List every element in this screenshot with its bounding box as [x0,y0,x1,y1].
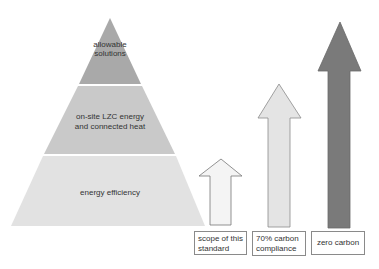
label-box-zero-carbon: zero carbon [311,231,365,255]
arrow-70-carbon-compliance [258,84,301,227]
arrow-zero-carbon [318,22,361,228]
label-line: compliance [256,244,302,254]
layer-label-allowable-line2: solutions [94,49,126,58]
label-box-70-carbon-compliance: 70% carbon compliance [252,231,306,256]
layer-label-energy-efficiency: energy efficiency [80,188,140,197]
diagram-canvas: allowable solutions on-site LZC energy a… [0,0,379,269]
layer-label-lzc-line2: and connected heat [75,122,146,131]
layer-label-allowable-line1: allowable [93,40,127,49]
layer-label-lzc-line1: on-site LZC energy [76,112,144,121]
label-line: 70% carbon [256,234,302,244]
label-line: standard [198,244,243,254]
label-line: scope of this [198,234,243,244]
label-box-scope-of-standard: scope of this standard [194,231,247,255]
arrow-scope-of-standard [199,159,242,225]
label-line: zero carbon [317,238,359,248]
